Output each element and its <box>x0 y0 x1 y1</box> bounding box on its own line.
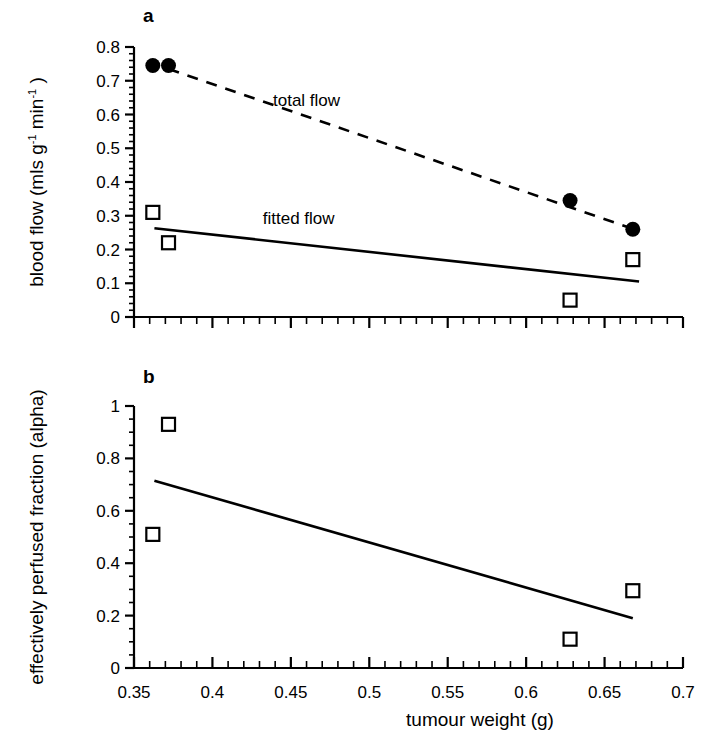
panel-a-marker-total-flow <box>145 58 160 73</box>
panel-a-fit-lines <box>154 69 639 282</box>
panel-a-y-axis-title-text: blood flow (mls g-1 min-1 ) <box>26 77 47 287</box>
x-tick-label: 0.65 <box>588 683 621 702</box>
panel-a-marker-fitted-flow <box>162 236 175 249</box>
panel-b-marker-perfused-fraction <box>162 418 175 431</box>
x-tick-label: 0.5 <box>357 683 381 702</box>
panel-a-y-tick-label: 0.7 <box>96 72 120 91</box>
panel-a-y-tick-label: 0.5 <box>96 139 120 158</box>
annotation-fitted-flow: fitted flow <box>263 209 336 228</box>
annotation-total-flow: total flow <box>273 91 341 110</box>
x-axis-title: tumour weight (g) <box>406 709 554 730</box>
x-tick-label: 0.7 <box>671 683 695 702</box>
panel-b-data-points <box>146 418 639 646</box>
panel-b-marker-perfused-fraction <box>564 633 577 646</box>
panel-a-label: a <box>143 5 154 26</box>
panel-b-y-tick-label: 0 <box>111 659 120 678</box>
x-axis-title-text: tumour weight (g) <box>406 709 554 730</box>
panel-a-y-tick-label: 0.3 <box>96 207 120 226</box>
panel-a-axes <box>125 47 683 328</box>
panel-a-y-tick-label: 0.4 <box>96 173 120 192</box>
panel-b-y-tick-label: 0.8 <box>96 449 120 468</box>
x-tick-label: 0.4 <box>201 683 225 702</box>
panel-a-marker-fitted-flow <box>564 294 577 307</box>
panel-b-fit-lines <box>154 481 632 619</box>
panel-b-fit-line-regression <box>154 481 632 619</box>
panel-a-marker-total-flow <box>625 222 640 237</box>
panel-b-y-tick-label: 0.4 <box>96 554 120 573</box>
panel-a-y-tick-label: 0.2 <box>96 241 120 260</box>
scientific-figure: 00.10.20.30.40.50.60.70.8blood flow (mls… <box>0 0 718 752</box>
panel-b-marker-perfused-fraction <box>626 584 639 597</box>
panel-a-data-points <box>145 58 640 307</box>
panel-a-y-axis-title: blood flow (mls g-1 min-1 ) <box>26 77 47 287</box>
panel-a-marker-fitted-flow <box>626 253 639 266</box>
panel-b-y-axis-title: effectively perfused fraction (alpha) <box>26 389 47 684</box>
x-tick-label: 0.45 <box>274 683 307 702</box>
panel-a-y-tick-label: 0.8 <box>96 38 120 57</box>
panel-a-fit-line-fitted-flow <box>154 228 639 281</box>
panel-b-y-tick-label: 1 <box>111 397 120 416</box>
panel-b-y-tick-labels: 00.20.40.60.81 <box>96 397 120 678</box>
panel-a-annotations: total flowfitted flow <box>263 91 341 228</box>
panel-b-marker-perfused-fraction <box>146 528 159 541</box>
x-tick-label: 0.55 <box>431 683 464 702</box>
panel-b-y-tick-label: 0.2 <box>96 607 120 626</box>
panel-a-marker-total-flow <box>161 58 176 73</box>
panel-b-label-text: b <box>143 366 155 387</box>
panel-a-y-tick-label: 0.1 <box>96 274 120 293</box>
panel-b-y-tick-label: 0.6 <box>96 502 120 521</box>
panel-a-label-text: a <box>143 5 154 26</box>
x-tick-label: 0.35 <box>117 683 150 702</box>
panel-a-marker-total-flow <box>563 193 578 208</box>
figure-container: 00.10.20.30.40.50.60.70.8blood flow (mls… <box>0 0 718 752</box>
panel-a-y-tick-label: 0.6 <box>96 106 120 125</box>
panel-a-y-tick-labels: 00.10.20.30.40.50.60.70.8 <box>96 38 120 327</box>
x-tick-labels: 0.350.40.450.50.550.60.650.7 <box>117 683 694 702</box>
panel-b-label: b <box>143 366 155 387</box>
panel-a-marker-fitted-flow <box>146 206 159 219</box>
x-tick-label: 0.6 <box>514 683 538 702</box>
panel-a-y-tick-label: 0 <box>111 308 120 327</box>
panel-b-axes <box>125 406 683 668</box>
panel-b-y-axis-title-text: effectively perfused fraction (alpha) <box>26 389 47 684</box>
